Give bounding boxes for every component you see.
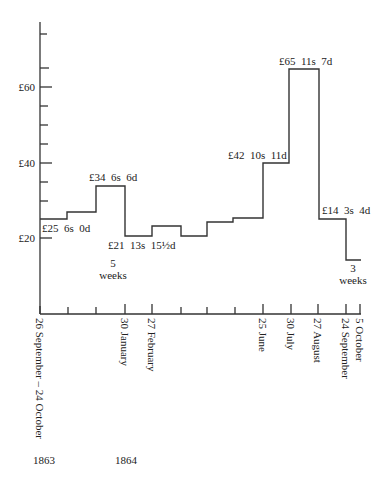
annotation-14: £14 3s 4d xyxy=(322,204,371,216)
y-label-60: £60 xyxy=(19,81,36,93)
x-label-30-july: 30 July xyxy=(285,318,297,351)
step-chart: £60 £40 £20 £25 6s 0d £34 6s 6d £21 13s … xyxy=(0,0,384,482)
annotation-3: 3 xyxy=(350,262,356,274)
annotation-42: £42 10s 11d xyxy=(228,149,287,161)
x-label-27-february: 27 February xyxy=(146,318,158,372)
annotation-5: 5 xyxy=(110,257,116,269)
annotation-21: £21 13s 15½d xyxy=(108,239,176,251)
annotation-weeks-2: weeks xyxy=(339,274,367,286)
x-label-27-august: 27 August xyxy=(312,318,324,363)
x-label-24-september: 24 September xyxy=(340,318,352,379)
x-ticks xyxy=(40,304,360,314)
x-label-26-september-24-october: 26 September – 24 October xyxy=(34,318,46,439)
x-label-30-january: 30 January xyxy=(119,318,131,366)
x-label-5-october: 5 October xyxy=(354,318,366,362)
y-label-40: £40 xyxy=(19,157,36,169)
year-1863: 1863 xyxy=(33,454,56,466)
x-label-25-june: 25 June xyxy=(257,318,269,352)
annotation-65: £65 11s 7d xyxy=(279,55,333,67)
y-ticks xyxy=(40,34,52,238)
y-label-20: £20 xyxy=(19,232,36,244)
annotation-weeks-1: weeks xyxy=(99,269,127,281)
annotation-25: £25 6s 0d xyxy=(42,222,91,234)
annotation-34: £34 6s 6d xyxy=(89,171,138,183)
year-1864: 1864 xyxy=(115,454,138,466)
